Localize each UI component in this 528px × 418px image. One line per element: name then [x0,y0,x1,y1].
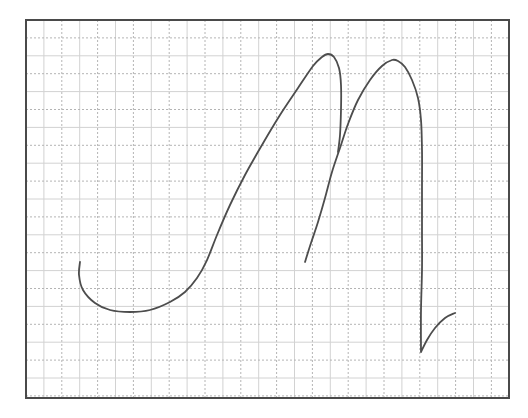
plot-area [0,0,528,418]
plot-frame [26,20,509,398]
